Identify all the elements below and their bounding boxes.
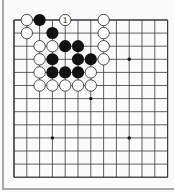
white-stone [85,67,96,78]
black-stone [59,40,71,52]
white-stone [98,27,109,38]
black-stone [59,66,71,78]
white-stone [85,80,96,91]
white-stone [98,54,109,65]
white-stone [21,14,32,25]
move-number-label: 1 [63,16,68,25]
black-stone [72,53,84,65]
white-stone: 1 [59,14,70,25]
white-stone [47,80,58,91]
white-stone [34,80,45,91]
white-stone [59,80,70,91]
white-stone [98,14,109,25]
black-stone [46,66,58,78]
star-point [128,136,131,139]
star-point [89,97,92,100]
go-board-svg: 1 [0,0,174,192]
black-stone [46,27,58,39]
white-stone [98,41,109,52]
black-stone [72,40,84,52]
black-stone [46,53,58,65]
white-stone [34,67,45,78]
white-stone [34,41,45,52]
black-stone [34,14,46,26]
star-point [51,136,54,139]
white-stone [21,27,32,38]
white-stone [72,80,83,91]
star-point [128,58,131,61]
black-stone [85,53,97,65]
go-board-diagram: 1 [0,0,174,192]
white-stone [34,54,45,65]
black-stone [72,66,84,78]
white-stone [47,41,58,52]
